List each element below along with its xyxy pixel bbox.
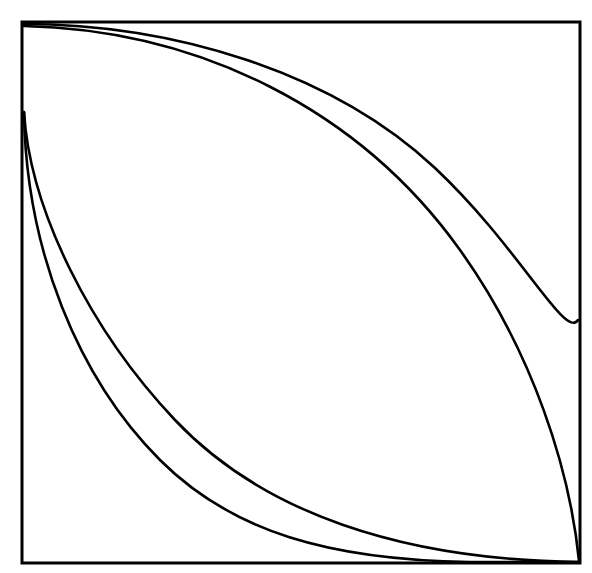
- line-drawing-svg: [0, 0, 592, 573]
- figure-background: [0, 0, 592, 573]
- figure-canvas: [0, 0, 592, 573]
